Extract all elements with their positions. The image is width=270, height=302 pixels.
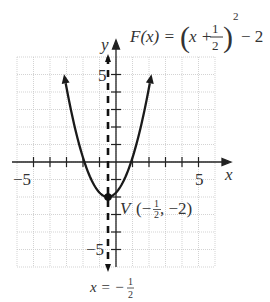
axis-eq-den: 2 xyxy=(128,289,133,300)
symmetry-arrow-top-icon xyxy=(105,54,111,62)
func-frac-num: 1 xyxy=(212,21,219,36)
x-axis-label: x xyxy=(224,165,233,184)
vertex-label: V (− 1 2 , −2) xyxy=(120,198,192,220)
parabola-graph: y x −5 5 5 −5 F(x) = ( x + 1 2 ) 2 − 2 V… xyxy=(0,0,270,302)
y-tick-label-neg5: −5 xyxy=(86,240,104,259)
func-x-plus: x + xyxy=(188,27,212,46)
axis-eq-lhs: x = − xyxy=(89,279,124,295)
vertex-close: , −2) xyxy=(160,199,192,218)
vertex-point xyxy=(104,193,112,201)
func-tail: − 2 xyxy=(241,27,263,46)
x-tick-label-5: 5 xyxy=(195,170,204,189)
vertex-frac-num: 1 xyxy=(154,198,159,209)
func-exponent: 2 xyxy=(233,10,239,22)
vertex-V: V xyxy=(120,199,133,218)
y-axis-arrow-icon xyxy=(113,40,120,49)
symmetry-arrow-bottom-icon xyxy=(105,264,111,272)
func-frac-den: 2 xyxy=(212,38,219,53)
function-equation: F(x) = ( x + 1 2 ) 2 − 2 xyxy=(129,10,263,54)
axis-eq-num: 1 xyxy=(128,276,133,287)
curve-arrow-left-icon xyxy=(62,74,70,84)
vertex-open: (− xyxy=(136,199,151,218)
symmetry-equation: x = − 1 2 xyxy=(89,276,134,300)
func-paren-close: ) xyxy=(223,20,233,54)
vertex-frac-den: 2 xyxy=(154,209,159,220)
y-axis-label: y xyxy=(99,35,109,54)
x-tick-label-neg5: −5 xyxy=(13,170,31,189)
func-lhs: F(x) = xyxy=(129,27,175,46)
curve-arrow-right-icon xyxy=(146,74,154,84)
y-tick-label-5: 5 xyxy=(98,66,107,85)
